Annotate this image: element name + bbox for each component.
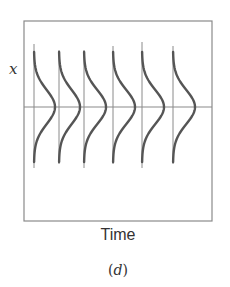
plot-frame [24, 21, 212, 221]
caption-close-paren: ) [122, 262, 127, 278]
y-axis-label: x [9, 60, 17, 78]
distribution-curves [34, 42, 195, 168]
figure-caption: (d) [0, 262, 230, 278]
x-axis-label: Time [0, 226, 230, 244]
